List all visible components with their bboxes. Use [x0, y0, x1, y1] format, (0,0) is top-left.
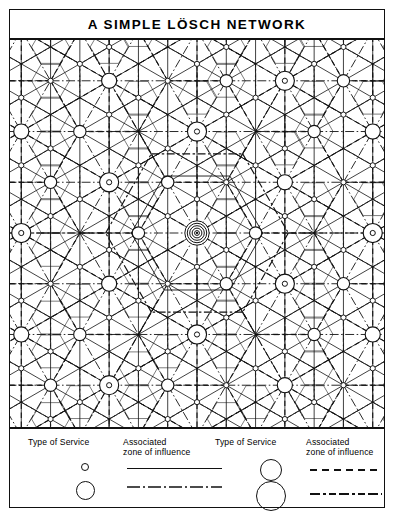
- legend-zone-header-1-line2: zone of influence: [123, 447, 191, 457]
- page-title: A SIMPLE LÖSCH NETWORK: [88, 17, 307, 32]
- legend-marker-medium-circle: [76, 481, 95, 500]
- legend-zone-line-solid: [127, 468, 222, 469]
- legend-marker-large-circle: [260, 459, 282, 481]
- legend-zone-line-dashed: [310, 467, 382, 473]
- legend-zone-header-2-line1: Associated: [306, 437, 350, 447]
- legend-marker-xlarge-circle: [256, 481, 286, 511]
- legend-zone-line-longdashdot: [310, 491, 382, 497]
- legend-marker-small-circle: [81, 463, 89, 471]
- losch-network-svg: [10, 40, 384, 427]
- legend-zone-header-2-line2: zone of influence: [306, 447, 374, 457]
- network-map-panel: [9, 39, 385, 428]
- legend-panel: Type of Service Associated zone of influ…: [9, 428, 385, 508]
- legend-zone-header-1-line1: Associated: [123, 437, 167, 447]
- legend-service-header-1: Type of Service: [28, 437, 89, 447]
- legend-zone-line-dashdot: [127, 484, 222, 490]
- legend-service-header-2: Type of Service: [215, 437, 276, 447]
- losch-network-figure: A SIMPLE LÖSCH NETWORK Type of Service A…: [0, 0, 394, 516]
- title-box: A SIMPLE LÖSCH NETWORK: [9, 9, 385, 39]
